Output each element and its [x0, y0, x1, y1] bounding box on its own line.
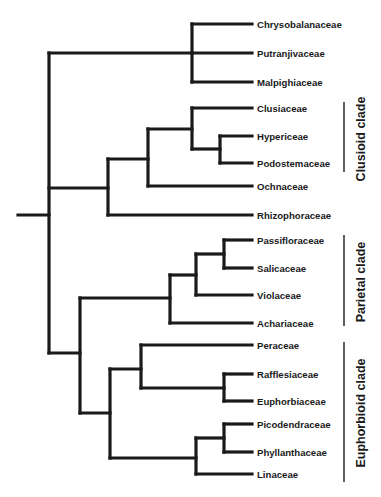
euphorbioid-clade-label: Euphorbioid clade	[354, 358, 368, 467]
taxon-label: Violaceae	[257, 290, 301, 301]
figure-caption-fragment	[12, 490, 332, 497]
taxon-label: Peraceae	[257, 340, 299, 351]
taxon-label: Hypericeae	[257, 131, 308, 142]
taxon-label: Achariaceae	[257, 318, 314, 329]
taxon-label: Chrysobalanaceae	[257, 19, 342, 30]
phylogenetic-tree: Chrysobalanaceae Putranjivaceae Malpighi…	[0, 0, 381, 497]
taxon-label: Malpighiaceae	[257, 77, 323, 88]
taxon-label: Picodendraceae	[257, 419, 331, 430]
taxon-label: Putranjivaceae	[257, 48, 325, 59]
taxon-label: Phyllanthaceae	[257, 447, 327, 458]
taxon-label: Salicaceae	[257, 263, 306, 274]
parietal-clade-label: Parietal clade	[354, 242, 368, 323]
taxon-label: Rafflesiaceae	[257, 369, 318, 380]
taxon-label: Rhizophoraceae	[257, 210, 331, 221]
taxon-label: Euphorbiaceae	[257, 396, 326, 407]
taxon-label: Podostemaceae	[257, 158, 330, 169]
taxon-label: Clusiaceae	[257, 103, 307, 114]
taxon-label: Ochnaceae	[257, 181, 308, 192]
taxon-label: Passifloraceae	[257, 235, 324, 246]
clusioid-clade-label: Clusioid clade	[354, 97, 368, 182]
taxon-label: Linaceae	[257, 469, 298, 480]
